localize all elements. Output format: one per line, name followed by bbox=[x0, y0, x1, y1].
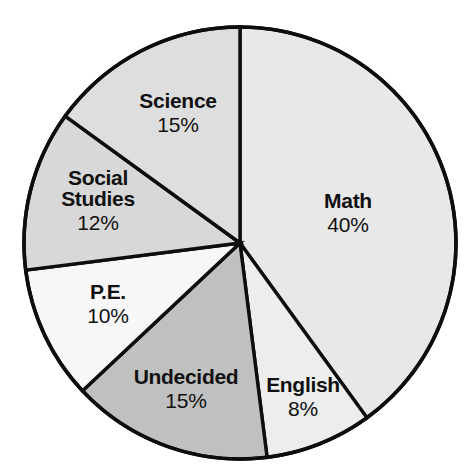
pie-chart: Math40%English8%Undecided15%P.E.10%Socia… bbox=[0, 0, 467, 476]
pie-chart-page: Math40%English8%Undecided15%P.E.10%Socia… bbox=[0, 0, 467, 476]
slice-label-value-science: 15% bbox=[139, 114, 216, 135]
slice-label-undecided: Undecided15% bbox=[134, 366, 239, 411]
slice-label-name-p-e: P.E. bbox=[87, 281, 128, 302]
slice-label-name-line: Undecided bbox=[134, 366, 239, 387]
slice-label-name-line: Math bbox=[324, 190, 372, 211]
slice-label-value-english: 8% bbox=[266, 398, 340, 419]
slice-label-name-line: English bbox=[266, 374, 340, 395]
slice-label-name-math: Math bbox=[324, 190, 372, 211]
slice-label-name-undecided: Undecided bbox=[134, 366, 239, 387]
slice-label-value-undecided: 15% bbox=[134, 390, 239, 411]
slice-label-social-studies: SocialStudies12% bbox=[61, 167, 135, 233]
slice-label-science: Science15% bbox=[139, 90, 216, 135]
slice-label-name-line: P.E. bbox=[87, 281, 128, 302]
slice-label-p-e: P.E.10% bbox=[87, 281, 128, 326]
slice-label-name-line: Studies bbox=[61, 188, 135, 209]
slice-label-name-social-studies: SocialStudies bbox=[61, 167, 135, 209]
slice-label-value-math: 40% bbox=[324, 214, 372, 235]
slice-label-name-science: Science bbox=[139, 90, 216, 111]
slice-label-name-english: English bbox=[266, 374, 340, 395]
slice-label-name-line: Science bbox=[139, 90, 216, 111]
slice-label-name-line: Social bbox=[61, 167, 135, 188]
slice-label-value-social-studies: 12% bbox=[61, 212, 135, 233]
pie-slices-group bbox=[24, 27, 456, 459]
slice-label-value-p-e: 10% bbox=[87, 305, 128, 326]
slice-label-english: English8% bbox=[266, 374, 340, 419]
slice-label-math: Math40% bbox=[324, 190, 372, 235]
